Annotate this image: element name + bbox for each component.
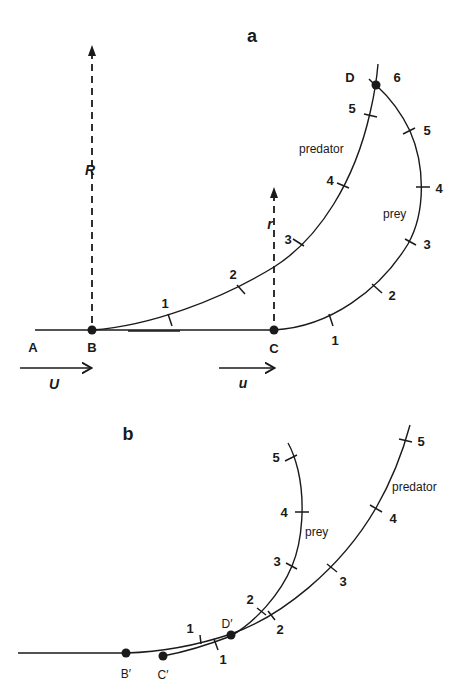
prey-tick-label-1: 1 [331, 333, 338, 348]
point-c [270, 326, 279, 335]
point-b-prime [122, 649, 131, 658]
prey-tick-2 [372, 284, 382, 293]
point-d-prime-label: D′ [222, 617, 234, 631]
predator-tick-label-4: 4 [326, 173, 334, 188]
point-c-prime [159, 652, 168, 661]
panel-a: a R r A B C D 1 2 3 4 5 [20, 26, 443, 392]
predator-tick-label-3: 3 [284, 232, 291, 247]
prey-tick-label-2: 2 [388, 288, 395, 303]
predator-tick-b-label-4: 4 [389, 511, 397, 526]
predator-path-a [92, 64, 378, 330]
prey-tick-b-1 [200, 635, 201, 644]
predator-tick-2 [237, 285, 245, 294]
predator-range-arrowhead [88, 45, 96, 56]
predator-label-b: predator [392, 480, 437, 494]
prey-label-b: prey [305, 525, 328, 539]
prey-tick-label-5: 5 [423, 123, 430, 138]
prey-tick-label-4: 4 [435, 181, 443, 196]
panel-b-label: b [123, 424, 134, 444]
predator-tick-b-label-1: 1 [219, 652, 226, 667]
point-a-label: A [28, 340, 38, 355]
point-b-label: B [87, 340, 96, 355]
prey-label-a: prey [383, 207, 406, 221]
point-b [88, 326, 97, 335]
prey-tick-b-label-2: 2 [246, 592, 253, 607]
predator-tick-b-label-3: 3 [339, 574, 346, 589]
predator-tick-1 [168, 314, 172, 326]
predator-label-a: predator [299, 142, 344, 156]
point-b-prime-label: B′ [121, 667, 132, 681]
panel-a-label: a [247, 26, 258, 46]
predator-tick-3 [293, 239, 304, 246]
predator-range-label: R [85, 162, 96, 178]
predator-tick-label-2: 2 [229, 267, 236, 282]
pursuit-diagram: a R r A B C D 1 2 3 4 5 [0, 0, 470, 699]
panel-b: b B′ C′ D′ 1 2 3 4 5 prey 1 2 3 4 5 pred [18, 424, 437, 682]
predator-tick-label-1: 1 [161, 296, 168, 311]
point-c-label: C [269, 341, 279, 356]
prey-speed-label: u [239, 375, 248, 391]
prey-tick-b-label-4: 4 [280, 505, 288, 520]
prey-tick-1 [329, 314, 333, 326]
predator-speed-label: U [49, 376, 60, 392]
prey-tick-label-3: 3 [423, 237, 430, 252]
predator-tick-b-label-2: 2 [276, 622, 283, 637]
prey-tick-b-label-3: 3 [273, 554, 280, 569]
prey-range-arrowhead [270, 187, 278, 198]
point-d-prime [227, 631, 236, 640]
prey-tick-b-label-5: 5 [272, 450, 279, 465]
predator-tick-label-5: 5 [348, 101, 355, 116]
predator-path-b [18, 425, 410, 653]
predator-tick-5 [364, 114, 377, 117]
predator-tick-b-label-5: 5 [417, 434, 424, 449]
prey-tick-b-label-1: 1 [186, 621, 193, 636]
predator-tick-label-6: 6 [393, 70, 400, 85]
point-d-label: D [345, 70, 354, 85]
point-c-prime-label: C′ [158, 668, 170, 682]
predator-tick-b-4 [370, 505, 382, 512]
